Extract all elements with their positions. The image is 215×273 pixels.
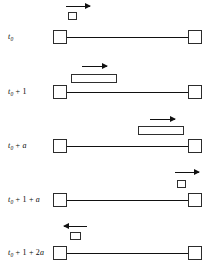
rail-end-box-left [53, 246, 67, 260]
rail-line [54, 146, 201, 147]
rail-end-box-left [53, 193, 67, 207]
row-time-label: t0 + 1 [8, 87, 27, 97]
timeline-diagram: t0t0 + 1t0 + at0 + 1 + at0 + 1 + 2a [0, 0, 215, 273]
arrow-head [102, 63, 108, 69]
row-time-label: t0 + 1 + a [8, 195, 40, 205]
rail-end-box-right [188, 193, 202, 207]
sliding-block [177, 180, 186, 188]
direction-arrow-left [64, 226, 87, 227]
rail-line [54, 200, 201, 201]
rail-end-box-left [53, 30, 67, 44]
rail-line [54, 253, 201, 254]
direction-arrow-right [82, 66, 107, 67]
sliding-block [71, 74, 117, 83]
rail-end-box-right [188, 85, 202, 99]
sliding-block [138, 126, 184, 135]
direction-arrow-right [175, 172, 199, 173]
arrow-head [85, 3, 91, 9]
arrow-head [63, 223, 69, 229]
rail-end-box-right [188, 139, 202, 153]
arrow-head [170, 116, 176, 122]
rail-line [54, 37, 201, 38]
sliding-block [68, 12, 77, 20]
rail-end-box-right [188, 30, 202, 44]
rail-end-box-left [53, 139, 67, 153]
arrow-head [194, 169, 200, 175]
sliding-block [70, 232, 81, 240]
direction-arrow-right [66, 6, 90, 7]
direction-arrow-right [150, 119, 175, 120]
row-time-label: t0 + a [8, 141, 27, 151]
row-time-label: t0 [8, 32, 13, 42]
row-time-label: t0 + 1 + 2a [8, 248, 44, 258]
rail-end-box-right [188, 246, 202, 260]
rail-line [54, 92, 201, 93]
rail-end-box-left [53, 85, 67, 99]
